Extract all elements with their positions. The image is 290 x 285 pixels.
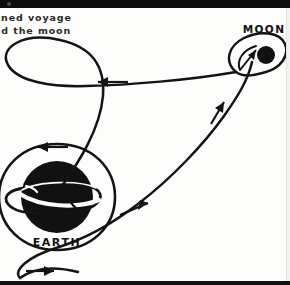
scan-band-top xyxy=(0,0,290,8)
caption-line-2: und the moon xyxy=(0,25,156,38)
scan-speck-icon xyxy=(7,2,11,6)
figure-page: anned voyage und the moon EARTH xyxy=(0,0,290,285)
trajectory-diagram: EARTH MOON xyxy=(0,0,290,285)
trajectory-outbound-leg xyxy=(6,38,236,186)
caption-line-1: anned voyage xyxy=(0,12,156,25)
earth-disk xyxy=(21,161,93,233)
scan-band-bottom xyxy=(0,281,290,285)
moon-label: MOON xyxy=(243,23,286,35)
scan-edge-right xyxy=(286,8,290,282)
arrow-moon-loop xyxy=(240,50,256,70)
moon-disk xyxy=(257,46,275,64)
figure-caption: anned voyage und the moon xyxy=(0,12,156,37)
